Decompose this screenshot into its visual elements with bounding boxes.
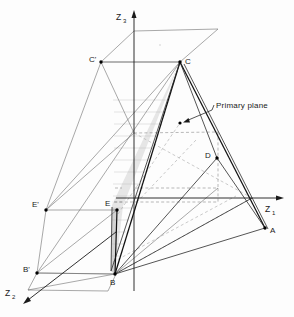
vertex-dots-group xyxy=(35,60,266,275)
z1-label-subscript: 1 xyxy=(272,210,276,216)
figure-root: C C' E E' B B' A D Z 3 Z 1 Z 2 Primary p… xyxy=(0,0,294,317)
z3-label-letter: Z xyxy=(116,12,121,22)
primary-plane-leader-tick xyxy=(212,105,214,110)
axes-group xyxy=(23,10,284,304)
vertex-label-b: B xyxy=(110,278,115,287)
vertex-a-dot xyxy=(263,226,266,229)
primary-plane-arrowhead xyxy=(183,118,190,123)
vertex-e-dot xyxy=(115,208,118,211)
vertex-b-dot xyxy=(113,272,116,275)
z2-label-letter: Z xyxy=(5,288,10,298)
vertex-c-dot xyxy=(178,60,181,63)
top-plane-center-dot xyxy=(159,44,161,46)
vertex-e-prime-dot xyxy=(44,208,47,211)
z2-label-subscript: 2 xyxy=(12,294,16,300)
interior-guides xyxy=(28,62,180,290)
axis-label-z3: Z 3 xyxy=(116,12,127,24)
z1-label-letter: Z xyxy=(265,204,270,214)
primary-plane-label: Primary plane xyxy=(216,101,268,110)
primary-plane-annotation: Primary plane xyxy=(178,101,268,125)
dashed-construction-lines xyxy=(112,123,252,274)
z1-arrowhead xyxy=(276,196,284,201)
z2-arrowhead xyxy=(23,297,31,305)
vertex-label-c-prime: C' xyxy=(89,55,97,64)
vertex-b-prime-dot xyxy=(35,271,38,274)
z3-arrowhead xyxy=(132,10,137,18)
vertex-label-a: A xyxy=(270,226,276,235)
vertex-label-d: D xyxy=(205,151,211,160)
vertex-label-c: C xyxy=(185,57,191,66)
axis-label-z2: Z 2 xyxy=(5,288,16,300)
z3-label-subscript: 3 xyxy=(123,18,127,24)
vertex-label-e-prime: E' xyxy=(32,200,39,209)
vertex-label-e: E xyxy=(105,199,110,208)
geometric-diagram-svg: C C' E E' B B' A D Z 3 Z 1 Z 2 Primary p… xyxy=(0,0,294,317)
top-parallelogram xyxy=(101,29,218,62)
vertex-c-prime-dot xyxy=(99,60,102,63)
vertex-label-b-prime: B' xyxy=(23,265,30,274)
vertex-d-dot xyxy=(215,156,218,159)
axis-label-z1: Z 1 xyxy=(265,204,276,216)
primary-plane-marker-dot xyxy=(178,121,181,124)
